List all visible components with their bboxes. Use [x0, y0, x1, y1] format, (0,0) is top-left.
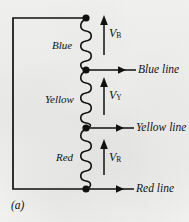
line-label-yellow: Yellow line: [136, 122, 186, 134]
node-blue-line-tap: [82, 66, 89, 73]
voltage-arrowhead-blue-icon: [100, 15, 108, 25]
coil-blue: [81, 19, 92, 70]
voltage-label-blue: VB: [109, 27, 121, 40]
line-label-blue: Blue line: [138, 64, 179, 76]
coil-red: [81, 129, 92, 189]
line-label-red: Red line: [136, 183, 174, 195]
figure-caption: (a): [11, 200, 24, 212]
node-red-line-tap: [82, 185, 89, 192]
voltage-label-red: VR: [109, 151, 121, 164]
node-top-terminal: [82, 14, 89, 21]
voltage-arrowhead-yellow-icon: [100, 77, 108, 87]
node-yellow-line-tap: [82, 124, 89, 131]
voltage-subscript-red: R: [116, 155, 121, 164]
voltage-subscript-blue: B: [116, 31, 121, 40]
voltage-label-yellow: VY: [109, 89, 122, 102]
figure-star-connected-winding: Blue Yellow Red VB VY VR Blue line Yello…: [0, 0, 189, 222]
voltage-arrowhead-red-icon: [100, 139, 108, 149]
coil-yellow: [81, 71, 92, 128]
winding-label-blue: Blue: [52, 40, 72, 51]
arrowhead-red-line-icon: [116, 185, 124, 193]
arrowhead-blue-line-icon: [118, 66, 126, 74]
winding-label-red: Red: [56, 152, 73, 163]
voltage-subscript-yellow: Y: [116, 93, 121, 102]
arrowhead-yellow-line-icon: [116, 124, 124, 132]
winding-label-yellow: Yellow: [45, 94, 74, 105]
